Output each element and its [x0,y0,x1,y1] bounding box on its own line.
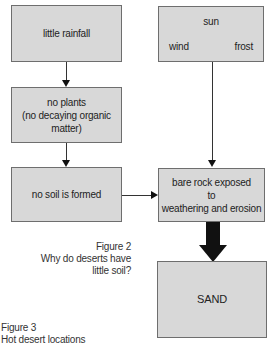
box-little-rainfall: little rainfall [11,5,122,62]
connector-line [212,62,213,161]
thick-arrow-down-icon [199,245,227,262]
thick-arrow-shaft [206,222,220,246]
weather-wind: wind [169,40,189,53]
figure2-caption: Figure 2 Why do deserts have little soil… [41,241,131,277]
figure2-number: Figure 2 [41,241,131,253]
box-label-line1: bare rock exposed [172,176,251,189]
connector-line [66,143,67,160]
box-label-line3: weathering and erosion [162,202,262,215]
box-sand: SAND [157,261,267,338]
arrow-down-icon [208,160,216,167]
connector-line [122,195,151,196]
figure3-caption: Figure 3 Hot desert locations [1,322,85,346]
box-label: little rainfall [43,27,90,40]
box-no-plants: no plants (no decaying organic matter) [11,87,122,143]
weather-frost: frost [235,40,253,53]
figure2-line1: Why do deserts have [41,253,131,265]
weather-sun: sun [203,15,219,28]
box-label: SAND [197,293,227,306]
box-label-line1: no plants [47,96,86,109]
arrow-down-icon [62,80,70,87]
figure3-number: Figure 3 [1,322,85,334]
connector-line [66,62,67,80]
box-bare-rock: bare rock exposed to weathering and eros… [158,168,265,222]
box-label-line2: (no decaying organic [22,109,111,122]
weather-row: wind frost [159,40,263,53]
box-label-line3: matter) [51,122,81,135]
box-no-soil: no soil is formed [11,167,122,222]
box-weather-agents: sun wind frost [158,6,264,62]
figure2-line2: little soil? [41,265,131,277]
arrow-down-icon [62,160,70,167]
arrow-right-icon [151,191,158,199]
box-label: no soil is formed [32,188,101,201]
box-label-line2: to [208,189,216,202]
figure3-title: Hot desert locations [1,334,85,346]
